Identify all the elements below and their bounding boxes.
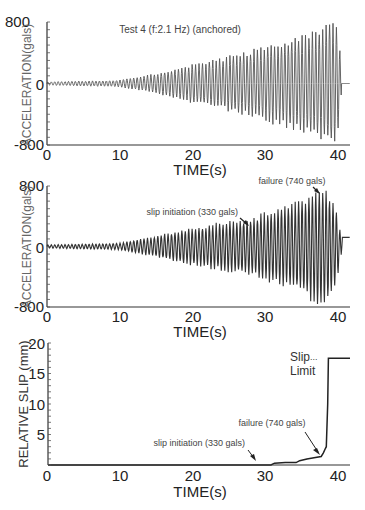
plot-middle-acceleration: 800 0 -800 0 10 20 30 40 TIME(s) ACCELER…: [14, 176, 350, 340]
figure: 800 0 -800 0 10 20 30 40 TIME(s) ACCELER…: [0, 0, 365, 510]
x-tick-labels: 0 10 20 30 40: [43, 467, 347, 484]
xtick-label: 30: [257, 308, 274, 325]
x-axis-label: TIME(s): [173, 323, 226, 340]
arrowhead-icon: [250, 454, 256, 461]
annotation-failure: failure (740 gals): [258, 176, 325, 186]
plot-top-acceleration: 800 0 -800 0 10 20 30 40 TIME(s) ACCELER…: [5, 13, 350, 178]
xtick-label: 10: [112, 467, 129, 484]
slip-limit-label-line1: Slip: [290, 350, 310, 364]
xtick-label: 20: [185, 467, 202, 484]
ytick-label: 0: [36, 239, 44, 256]
annotation-slip-initiation: slip initiation (330 gals): [146, 207, 238, 217]
xtick-label: 0: [43, 146, 51, 163]
slip-limit-dots: ...: [310, 352, 318, 362]
xtick-label: 10: [112, 146, 129, 163]
y-axis-label: ACCELERATION(gals): [20, 24, 34, 146]
xtick-label: 0: [43, 467, 51, 484]
plot-title: Test 4 (f:2.1 Hz) (anchored): [119, 24, 241, 35]
y-ticks: [48, 343, 51, 465]
xtick-label: 10: [112, 308, 129, 325]
plot-bottom-relative-slip: 20 15 10 5 0 10 20 30 40 TIME(s) RELATIV…: [16, 335, 350, 500]
annotation-slip-initiation: slip initiation (330 gals): [153, 438, 245, 448]
xtick-label: 30: [257, 146, 274, 163]
xtick-label: 40: [330, 146, 347, 163]
y-axis-label: RELATIVE SLIP (mm): [16, 340, 31, 467]
xtick-label: 40: [330, 467, 347, 484]
xtick-label: 0: [43, 308, 51, 325]
annotation-failure: failure (740 gals): [238, 418, 305, 428]
arrowhead-icon: [313, 448, 320, 455]
x-axis-label: TIME(s): [173, 161, 226, 178]
xtick-label: 40: [330, 308, 347, 325]
ytick-label: 0: [36, 76, 44, 93]
xtick-label: 30: [257, 467, 274, 484]
y-axis-label: ACCELERATION(gals): [20, 186, 34, 308]
ytick-label: 5: [37, 426, 45, 443]
slip-limit-label-line2: Limit: [290, 364, 316, 378]
x-axis-label: TIME(s): [173, 483, 226, 500]
acceleration-waveform-top: [47, 23, 350, 141]
